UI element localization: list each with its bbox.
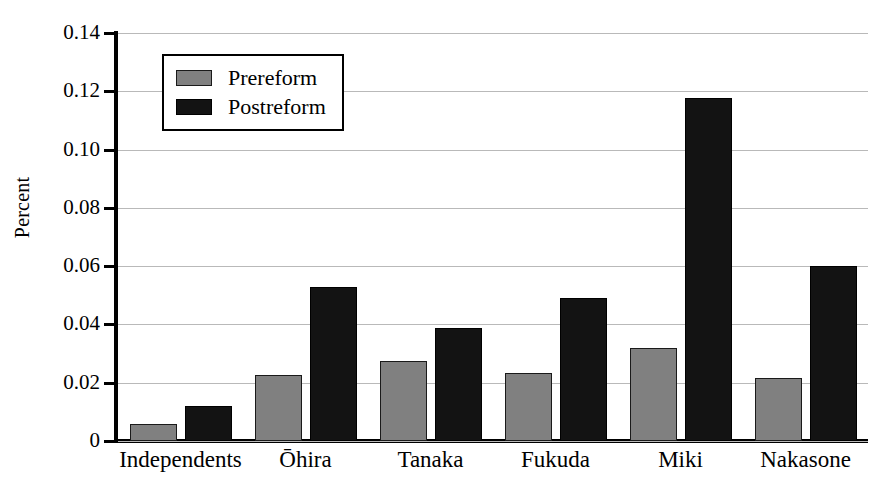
legend-item: Postreform (176, 92, 326, 121)
gridline (118, 208, 868, 209)
gridline (118, 441, 868, 442)
bar-postreform-1 (310, 287, 357, 441)
y-axis-tick-label: 0.06 (4, 255, 100, 276)
bar-postreform-3 (560, 298, 607, 441)
gridline (118, 150, 868, 151)
bar-prereform-2 (380, 361, 427, 441)
y-axis-tick-mark (104, 382, 118, 385)
x-axis-tick-label: Independents (119, 448, 242, 471)
bar-prereform-1 (255, 375, 302, 441)
y-axis-tick-label: 0.04 (4, 313, 100, 334)
bar-postreform-4 (685, 98, 732, 441)
y-axis-tick-mark (104, 440, 118, 443)
gridline (118, 33, 868, 34)
bar-prereform-4 (630, 348, 677, 441)
bar-postreform-2 (435, 328, 482, 441)
bar-prereform-5 (755, 378, 802, 441)
x-axis-tick-label: Miki (658, 448, 703, 471)
y-axis-tick-label: 0.02 (4, 372, 100, 393)
gridline (118, 324, 868, 325)
y-axis-tick-mark (104, 207, 118, 210)
y-axis-tick-label: 0.10 (4, 139, 100, 160)
legend-label: Prereform (228, 67, 317, 89)
bar-postreform-5 (810, 266, 857, 441)
y-axis-tick-label: 0 (4, 430, 100, 451)
bar-chart-figure: Percent 00.020.040.060.080.100.120.14 In… (0, 0, 875, 488)
y-axis-tick-mark (104, 149, 118, 152)
y-axis-tick-labels: 00.020.040.060.080.100.120.14 (0, 0, 100, 488)
y-axis-tick-label: 0.14 (4, 22, 100, 43)
gridline (118, 266, 868, 267)
legend-item: Prereform (176, 63, 326, 92)
y-axis-tick-mark (104, 323, 118, 326)
chart-legend: PrereformPostreform (162, 54, 344, 131)
y-axis-tick-mark (104, 90, 118, 93)
bar-prereform-0 (130, 424, 177, 441)
y-axis-tick-mark (104, 265, 118, 268)
legend-swatch-postreform (176, 99, 212, 115)
bar-prereform-3 (505, 373, 552, 441)
y-axis-tick-label: 0.12 (4, 80, 100, 101)
x-axis-tick-label: Nakasone (760, 448, 851, 471)
x-axis-tick-label: Ōhira (279, 448, 331, 471)
x-axis-tick-label: Tanaka (397, 448, 463, 471)
legend-label: Postreform (228, 96, 326, 118)
bar-postreform-0 (185, 406, 232, 441)
legend-swatch-prereform (176, 70, 212, 86)
x-axis-tick-label: Fukuda (521, 448, 590, 471)
y-axis-tick-mark (104, 32, 118, 35)
y-axis-tick-label: 0.08 (4, 197, 100, 218)
